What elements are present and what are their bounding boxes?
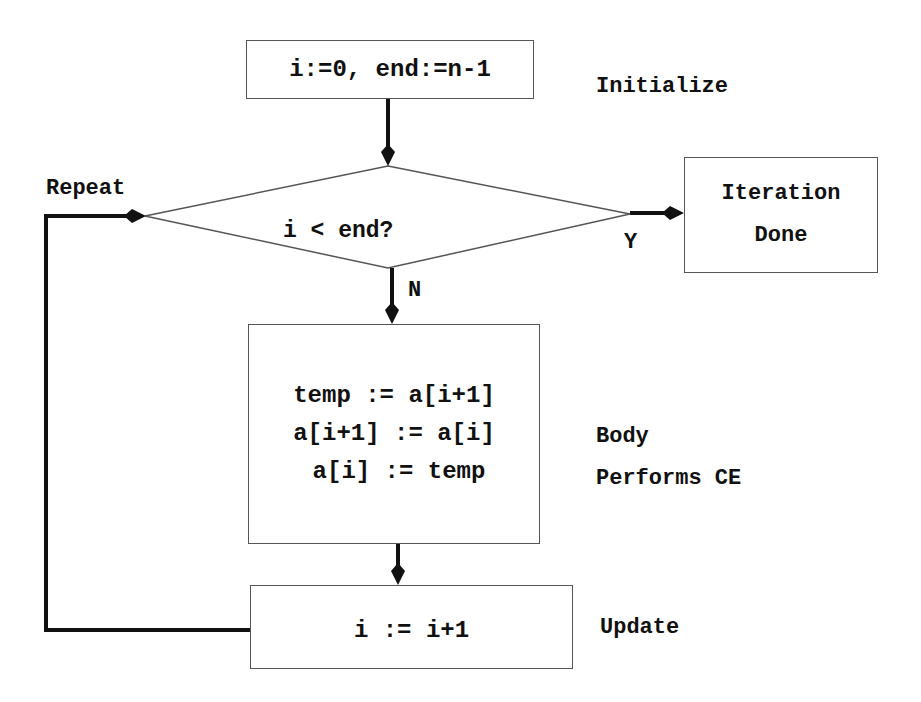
no-label: N bbox=[408, 280, 421, 302]
body-label: Body bbox=[596, 426, 649, 448]
done-text-line2: Done bbox=[755, 225, 808, 247]
arrowhead-down-icon bbox=[385, 302, 399, 324]
body-box: temp := a[i+1] a[i+1] := a[i] a[i] := te… bbox=[248, 324, 540, 544]
repeat-label: Repeat bbox=[46, 178, 125, 200]
arrowhead-right-icon bbox=[124, 209, 146, 223]
init-box: i:=0, end:=n-1 bbox=[246, 40, 534, 99]
update-label: Update bbox=[600, 617, 679, 639]
body-line-1: temp := a[i+1] bbox=[293, 384, 495, 408]
yes-label: Y bbox=[624, 232, 637, 254]
arrowhead-down-icon bbox=[381, 144, 395, 166]
init-text: i:=0, end:=n-1 bbox=[289, 58, 491, 82]
initialize-label: Initialize bbox=[596, 76, 728, 98]
arrowhead-right-icon bbox=[662, 206, 684, 220]
body-line-3: a[i] := temp bbox=[303, 460, 486, 484]
update-text: i := i+1 bbox=[354, 611, 469, 643]
condition-text: i < end? bbox=[283, 220, 393, 243]
arrowhead-down-icon bbox=[391, 563, 405, 585]
done-text-line1: Iteration bbox=[722, 183, 841, 205]
done-box: Iteration Done bbox=[684, 157, 878, 273]
update-box: i := i+1 bbox=[250, 585, 573, 669]
body-line-2: a[i+1] := a[i] bbox=[293, 422, 495, 446]
performs-ce-label: Performs CE bbox=[596, 468, 741, 490]
edge-update-to-condition bbox=[46, 216, 250, 630]
decision-diamond bbox=[145, 166, 630, 268]
